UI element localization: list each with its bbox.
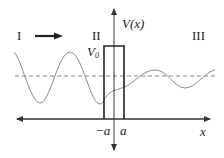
region-label-2: II — [92, 29, 101, 42]
diagram-svg — [0, 0, 224, 158]
barrier-height-label-main: V — [87, 44, 95, 59]
x-axis-label: x — [200, 125, 206, 138]
barrier-left-edge-label: −a — [95, 124, 110, 137]
barrier-right-edge-label: a — [120, 124, 127, 137]
region-label-1: I — [17, 29, 21, 42]
barrier-height-label-sub: 0 — [95, 51, 99, 60]
barrier-height-label: V0 — [87, 45, 99, 60]
wave-region-3 — [124, 70, 215, 88]
barrier-diagram: I II III V(x) V0 −a a x — [0, 0, 224, 158]
v-axis-label: V(x) — [122, 17, 144, 30]
arrow-right-icon — [35, 33, 63, 40]
region-label-3: III — [192, 29, 205, 42]
